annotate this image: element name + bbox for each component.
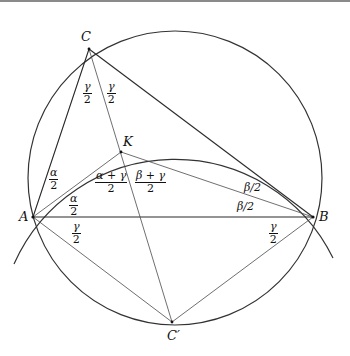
angle-alpha-plus-gamma: α + γ 2	[95, 170, 127, 194]
angle-beta-half-upper: β/2	[244, 182, 261, 193]
point-c-prime	[171, 321, 174, 324]
angle-beta-plus-gamma: β + γ 2	[135, 170, 166, 194]
point-b	[311, 215, 314, 218]
label-c: C	[81, 30, 91, 43]
angle-gamma-half-b: γ 2	[269, 221, 278, 245]
angle-gamma-half-left: γ 2	[83, 81, 92, 105]
label-c-prime: C′	[167, 329, 180, 342]
point-k	[120, 151, 123, 154]
point-a	[31, 215, 34, 218]
circumcircle	[28, 31, 322, 325]
label-b: B	[319, 210, 329, 223]
angle-beta-half-lower: β/2	[237, 201, 254, 212]
angle-alpha-half-lower: α 2	[69, 193, 78, 217]
point-c	[88, 48, 91, 51]
label-k: K	[123, 135, 133, 148]
angle-gamma-half-right: γ 2	[107, 81, 116, 105]
angle-alpha-half-upper: α 2	[49, 167, 58, 191]
segment-bc-prime	[172, 217, 313, 322]
label-a: A	[19, 210, 28, 223]
arc-akb	[14, 159, 333, 264]
angle-gamma-half-a: γ 2	[72, 221, 81, 245]
side-ac	[33, 49, 89, 217]
